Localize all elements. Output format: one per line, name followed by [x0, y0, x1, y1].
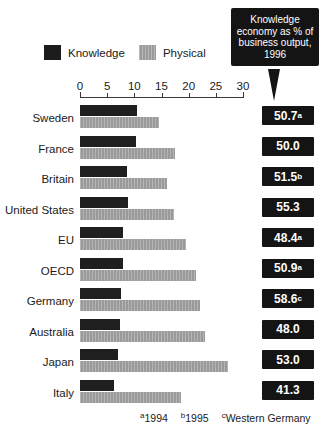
callout-text: Knowledge economy as % of business outpu…	[237, 14, 314, 60]
chart-row: EU48.4a	[0, 226, 331, 257]
bar-physical	[80, 392, 181, 403]
axis-tick-label-30: 30	[237, 80, 250, 92]
axis-tick-label-20: 20	[182, 80, 195, 92]
value-badge: 50.7a	[262, 106, 314, 125]
value-text: 50.0	[276, 139, 299, 153]
value-text: 48.0	[276, 322, 299, 336]
bar-physical	[80, 239, 186, 250]
value-text: 58.6	[274, 292, 297, 306]
chart-row: Sweden50.7a	[0, 104, 331, 135]
bar-physical	[80, 270, 196, 281]
x-axis: 051015202530	[80, 80, 243, 102]
bar-knowledge	[80, 197, 128, 208]
bar-knowledge	[80, 166, 127, 177]
value-text: 51.5	[274, 170, 297, 184]
bar-group	[80, 105, 159, 128]
axis-tick-25	[216, 93, 217, 98]
row-label-united-states: United States	[5, 204, 74, 216]
row-label-japan: Japan	[43, 356, 74, 368]
square-swatch-icon	[139, 45, 156, 60]
chart-row: Australia48.0	[0, 318, 331, 349]
chart-legend: KnowledgePhysical	[44, 45, 206, 60]
legend-entry-physical: Physical	[139, 45, 206, 60]
value-text: 50.9	[274, 261, 297, 275]
footnote-b: b1995	[181, 412, 209, 424]
bar-physical	[80, 209, 174, 220]
chart-row: Britain51.5b	[0, 165, 331, 196]
footnote-text: 1994	[144, 412, 167, 424]
bar-physical	[80, 117, 159, 128]
bar-group	[80, 380, 181, 403]
axis-tick-label-5: 5	[104, 80, 110, 92]
bar-group	[80, 319, 205, 342]
bar-group	[80, 166, 167, 189]
bar-physical	[80, 148, 175, 159]
value-badge: 58.6c	[262, 289, 314, 308]
row-label-eu: EU	[58, 234, 74, 246]
chart-row: Italy41.3	[0, 379, 331, 410]
axis-tick-label-10: 10	[128, 80, 141, 92]
bar-group	[80, 349, 228, 372]
bar-knowledge	[80, 136, 136, 147]
row-label-italy: Italy	[53, 387, 74, 399]
legend-entry-knowledge: Knowledge	[44, 45, 125, 60]
bar-group	[80, 258, 196, 281]
row-label-australia: Australia	[29, 326, 74, 338]
bar-group	[80, 136, 175, 159]
value-badge: 51.5b	[262, 167, 314, 186]
value-badge: 41.3	[262, 381, 314, 400]
value-badge: 53.0	[262, 350, 314, 369]
bar-physical	[80, 178, 167, 189]
chart-row: France50.0	[0, 135, 331, 166]
bar-knowledge	[80, 380, 114, 391]
axis-tick-label-0: 0	[77, 80, 83, 92]
bar-physical	[80, 300, 200, 311]
chart-row: Germany58.6c	[0, 287, 331, 318]
footnote-c: cWestern Germany	[222, 412, 311, 424]
value-badge: 55.3	[262, 198, 314, 217]
axis-tick-15	[162, 93, 163, 98]
value-text: 48.4	[274, 231, 297, 245]
row-label-britain: Britain	[41, 173, 74, 185]
axis-tick-0	[80, 92, 81, 98]
chart-row: Japan53.0	[0, 348, 331, 379]
legend-label: Physical	[163, 47, 206, 59]
axis-tick-5	[107, 93, 108, 98]
row-label-germany: Germany	[27, 295, 74, 307]
footnote-text: Western Germany	[226, 412, 311, 424]
axis-tick-label-15: 15	[155, 80, 168, 92]
footnote-text: 1995	[185, 412, 208, 424]
bar-group	[80, 288, 200, 311]
chart-row: United States55.3	[0, 196, 331, 227]
chart-rows: Sweden50.7aFrance50.0Britain51.5bUnited …	[0, 104, 331, 409]
footnote-a: a1994	[140, 412, 168, 424]
row-label-oecd: OECD	[41, 265, 74, 277]
legend-label: Knowledge	[68, 47, 125, 59]
bar-physical	[80, 361, 228, 372]
bar-knowledge	[80, 319, 120, 330]
bar-knowledge	[80, 258, 123, 269]
axis-tick-30	[243, 92, 244, 98]
value-text: 50.7	[274, 109, 297, 123]
value-text: 41.3	[276, 383, 299, 397]
value-badge: 48.0	[262, 320, 314, 339]
axis-tick-10	[134, 93, 135, 98]
chart-footnotes: a1994b1995cWestern Germany	[140, 412, 311, 424]
value-badge: 48.4a	[262, 228, 314, 247]
callout-box: Knowledge economy as % of business outpu…	[231, 8, 319, 66]
row-label-sweden: Sweden	[32, 112, 74, 124]
value-badge: 50.9a	[262, 259, 314, 278]
bar-knowledge	[80, 349, 118, 360]
bar-knowledge	[80, 288, 121, 299]
bar-knowledge	[80, 227, 123, 238]
axis-tick-20	[189, 93, 190, 98]
value-text: 55.3	[276, 200, 299, 214]
bar-group	[80, 197, 174, 220]
bar-knowledge	[80, 105, 137, 116]
row-label-france: France	[38, 143, 74, 155]
bar-group	[80, 227, 186, 250]
bar-physical	[80, 331, 205, 342]
square-swatch-icon	[44, 45, 61, 60]
chart-row: OECD50.9a	[0, 257, 331, 288]
callout-pointer-icon	[268, 69, 280, 101]
